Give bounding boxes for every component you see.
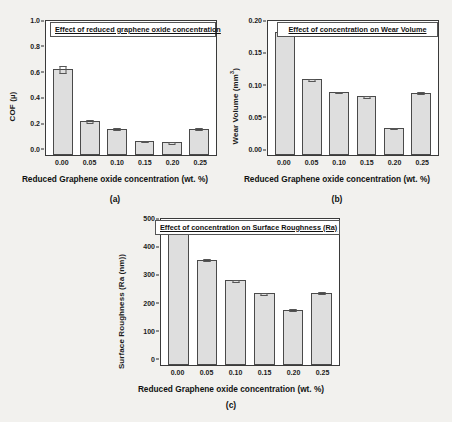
plot-area-c <box>160 218 340 366</box>
error-bar <box>390 128 397 131</box>
bar-item <box>186 21 213 155</box>
y-tick-a: 0.0 <box>30 145 43 152</box>
y-tick-a: 0.4 <box>30 94 43 101</box>
y-axis-label-b-superscript: 3 <box>229 71 235 74</box>
y-tick-a: 1.0 <box>30 17 43 24</box>
bar-item <box>298 21 325 155</box>
y-axis-label-a-text: COF (µ) <box>8 91 17 121</box>
bar-series-a <box>46 21 216 155</box>
x-tick-b: 0.25 <box>408 159 436 166</box>
y-tick-a: 0.6 <box>30 68 43 75</box>
x-tick-b: 0.20 <box>381 159 409 166</box>
chart-title-a-text: Effect of reduced graphene oxide concent… <box>55 25 221 34</box>
bar-series-c <box>161 219 339 365</box>
bar <box>53 69 73 155</box>
y-tick-b: 0.10 <box>248 81 265 88</box>
bar <box>302 79 322 155</box>
x-axis-ticks-a: 0.000.050.100.150.200.25 <box>45 159 217 166</box>
x-tick-c: 0.15 <box>250 369 279 376</box>
error-bar <box>196 128 203 131</box>
y-tick-c: 100 <box>143 327 158 334</box>
bar <box>197 260 218 365</box>
x-tick-c: 0.00 <box>163 369 192 376</box>
chart-title-b: Effect of concentration on Wear Volume <box>277 22 438 37</box>
bar <box>357 96 377 155</box>
y-axis-ticks-c: 5004003002001000 <box>134 218 158 366</box>
error-bar <box>308 79 315 82</box>
x-tick-a: 0.25 <box>186 159 214 166</box>
bar-series-b <box>268 21 438 155</box>
x-axis-label-a: Reduced Graphene oxide concentration (wt… <box>6 174 224 184</box>
panel-caption-a: (a) <box>6 194 224 204</box>
bar <box>135 141 155 155</box>
error-bar <box>141 141 148 143</box>
x-axis-ticks-c: 0.000.050.100.150.200.25 <box>160 369 340 376</box>
plot-area-a <box>45 20 217 156</box>
x-tick-c: 0.10 <box>221 369 250 376</box>
y-tick-b: 0.00 <box>248 146 265 153</box>
bar-item <box>353 21 380 155</box>
chart-c: Surface Roughness (Ra (nm)) 500400300200… <box>115 206 347 416</box>
bar-item <box>193 219 222 365</box>
figure-panel-group: COF (µ) 1.00.80.60.40.20.0 Effect of red… <box>0 0 452 422</box>
bar-item <box>164 219 193 365</box>
bar-item <box>250 219 279 365</box>
bar-item <box>131 21 158 155</box>
chart-title-c-text: Effect of concentration on Surface Rough… <box>160 223 337 232</box>
y-tick-a: 0.8 <box>30 42 43 49</box>
x-axis-label-b: Reduced Graphene oxide concentration (wt… <box>228 174 446 184</box>
y-tick-b: 0.20 <box>248 17 265 24</box>
x-tick-c: 0.05 <box>192 369 221 376</box>
panel-caption-b: (b) <box>228 194 446 204</box>
bar-item <box>279 219 308 365</box>
bar <box>80 121 100 155</box>
x-tick-a: 0.15 <box>131 159 159 166</box>
x-tick-b: 0.00 <box>270 159 298 166</box>
bar <box>384 128 404 155</box>
error-bar <box>114 128 121 131</box>
bar <box>168 225 189 365</box>
chart-panel-b: Wear Volume (mm3) 0.200.150.100.050.00 E… <box>228 8 446 204</box>
bar <box>411 93 431 155</box>
panel-caption-c: (c) <box>115 400 347 410</box>
x-tick-a: 0.20 <box>159 159 187 166</box>
y-tick-c: 400 <box>143 243 158 250</box>
bar-item <box>76 21 103 155</box>
error-bar <box>168 142 175 144</box>
chart-title-c: Effect of concentration on Surface Rough… <box>155 220 340 235</box>
x-tick-c: 0.25 <box>308 369 337 376</box>
bar <box>329 92 349 155</box>
error-bar <box>59 66 66 74</box>
bar-item <box>271 21 298 155</box>
bar <box>189 129 209 155</box>
chart-panel-c: Surface Roughness (Ra (nm)) 500400300200… <box>115 206 347 416</box>
bar <box>283 310 304 365</box>
chart-b: Wear Volume (mm3) 0.200.150.100.050.00 E… <box>228 8 446 204</box>
bar <box>254 293 275 365</box>
error-bar <box>204 259 211 262</box>
error-bar <box>261 293 268 296</box>
x-tick-b: 0.15 <box>353 159 381 166</box>
chart-a: COF (µ) 1.00.80.60.40.20.0 Effect of red… <box>6 8 224 204</box>
y-axis-label-b-text: Wear Volume (mm <box>231 74 240 145</box>
x-tick-a: 0.05 <box>76 159 104 166</box>
error-bar <box>363 96 370 99</box>
bar <box>107 129 127 155</box>
x-tick-b: 0.05 <box>298 159 326 166</box>
error-bar <box>86 120 93 123</box>
y-tick-c: 300 <box>143 271 158 278</box>
bar <box>162 142 182 155</box>
y-tick-c: 0 <box>151 355 158 362</box>
bar-item <box>408 21 435 155</box>
error-bar <box>232 280 239 283</box>
bar-item <box>380 21 407 155</box>
error-bar <box>290 309 297 312</box>
bar-item <box>307 219 336 365</box>
bar <box>225 280 246 365</box>
y-tick-a: 0.2 <box>30 120 43 127</box>
plot-area-b <box>267 20 439 156</box>
error-bar <box>318 292 325 295</box>
x-tick-c: 0.20 <box>279 369 308 376</box>
error-bar <box>336 92 343 95</box>
bar <box>275 32 295 155</box>
